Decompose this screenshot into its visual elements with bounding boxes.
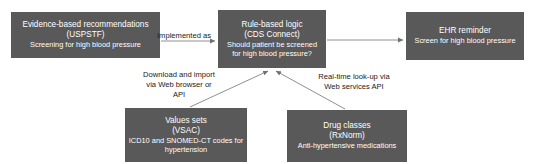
node-uspstf-line1: Evidence-based recommendations [22,20,148,30]
node-vsac-line3: ICD10 and SNOMED-CT codes for [129,136,243,145]
connector-label-real-time-lookup: Real-time look-up via Web services API [303,72,405,92]
node-ehr-line1: EHR reminder [439,26,491,36]
connector-label-download-line3: API [131,90,227,100]
node-cds-line2: (CDS Connect) [244,30,300,40]
node-drug-classes[interactable]: Drug classes (RxNorm) Anti-hypertensive … [287,110,407,162]
node-cds-line1: Rule-based logic [242,20,303,30]
node-value-sets[interactable]: Values sets (VSAC) ICD10 and SNOMED-CT c… [125,108,247,162]
connector-label-realtime-line2: Web services API [303,82,405,92]
node-rxnorm-line2: (RxNorm) [329,131,364,141]
connector-label-download-line1: Download and import [131,70,227,80]
node-ehr-reminder[interactable]: EHR reminder Screen for high blood press… [406,12,524,60]
node-ehr-line2: Screen for high blood pressure [414,36,515,45]
node-vsac-line4: hypertension [165,145,207,154]
node-vsac-line2: (VSAC) [172,126,200,136]
node-evidence-based-recommendations[interactable]: Evidence-based recommendations (USPSTF) … [11,12,160,58]
node-rxnorm-line3: Anti-hypertensive medications [298,141,397,150]
node-cds-line4: for high blood pressure? [232,49,312,58]
connector-label-realtime-line1: Real-time look-up via [303,72,405,82]
connector-label-download-line2: via Web browser or [131,80,227,90]
node-uspstf-line2: (USPSTF) [67,30,105,40]
node-rxnorm-line1: Drug classes [323,121,370,131]
connector-label-download-import: Download and import via Web browser or A… [131,70,227,100]
node-uspstf-line3: Screening for high blood pressure [30,40,141,49]
node-vsac-line1: Values sets [165,116,207,126]
flow-diagram: Evidence-based recommendations (USPSTF) … [0,0,534,164]
node-cds-line3: Should patient be screened [227,40,317,49]
node-rule-based-logic[interactable]: Rule-based logic (CDS Connect) Should pa… [218,10,326,68]
connector-label-implemented-as: Implemented as [157,31,211,41]
